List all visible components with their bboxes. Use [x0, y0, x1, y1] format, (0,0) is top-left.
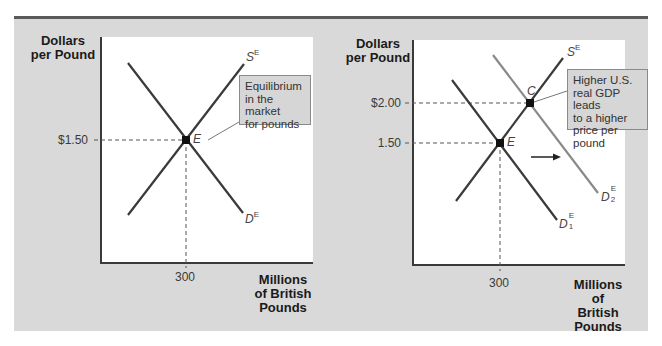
left-ytick-150: $1.50 [28, 133, 88, 147]
right-ytick-150: 1.50 [341, 136, 401, 150]
left-supply-label: SE [246, 48, 259, 64]
left-annotation-line2: in the market [245, 93, 305, 118]
right-point-c [526, 99, 534, 107]
right-annotation-line4: price per pound [573, 124, 642, 149]
right-xtick-300: 300 [489, 276, 509, 290]
left-x-label-line3: Pounds [250, 301, 316, 315]
left-annotation-line1: Equilibrium [245, 80, 305, 93]
right-demand2-label: DE2 [601, 190, 618, 204]
left-point-e-label: E [193, 132, 201, 146]
left-equilibrium-point [182, 136, 190, 144]
right-annotation-line1: Higher U.S. [573, 74, 642, 87]
right-supply-label: SE [567, 43, 580, 59]
left-x-label-line2: of British [250, 287, 316, 301]
right-point-e [496, 139, 504, 147]
right-annotation-line3: to a higher [573, 112, 642, 125]
right-y-axis-label: Dollars per Pound [343, 37, 413, 65]
left-y-axis-label: Dollars per Pound [28, 34, 98, 62]
right-x-axis-label: Millions of British Pounds [571, 278, 625, 334]
right-point-e-label: E [507, 135, 515, 149]
right-x-label-line1: Millions [571, 278, 625, 292]
chart-canvas [0, 0, 662, 346]
right-y-label-line1: Dollars [343, 37, 413, 51]
left-annotation-line3: for pounds [245, 118, 305, 131]
right-x-label-line3: Pounds [571, 320, 625, 334]
left-x-axis-label: Millions of British Pounds [250, 273, 316, 315]
right-demand1-label: DE1 [559, 217, 576, 231]
right-ytick-200: $2.00 [341, 96, 401, 110]
right-x-label-line2: of British [571, 292, 625, 320]
right-y-label-line2: per Pound [343, 51, 413, 65]
left-demand-label: DE [245, 210, 259, 226]
left-x-label-line1: Millions [250, 273, 316, 287]
left-y-label-line2: per Pound [28, 48, 98, 62]
right-annotation-line2: real GDP leads [573, 87, 642, 112]
left-y-label-line1: Dollars [28, 34, 98, 48]
left-annotation-box: Equilibrium in the market for pounds [239, 75, 311, 125]
right-annotation-box: Higher U.S. real GDP leads to a higher p… [567, 69, 648, 130]
right-point-c-label: C [527, 84, 536, 98]
left-xtick-300: 300 [175, 270, 195, 284]
